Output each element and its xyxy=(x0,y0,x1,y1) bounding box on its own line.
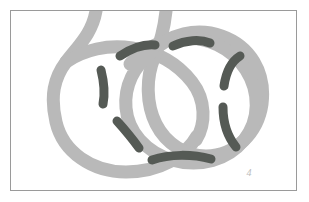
crossing-mark-left-upper xyxy=(101,70,104,104)
crossing-mark-top-right xyxy=(173,41,210,46)
crossing-mark-bottom xyxy=(152,155,211,160)
knot-diagram-canvas xyxy=(0,0,309,202)
crossing-mark-right-upper xyxy=(224,56,240,86)
figure-number-label: 4 xyxy=(240,165,258,181)
crossing-mark-right-lower xyxy=(223,107,236,147)
figure-page: 4 xyxy=(0,0,309,202)
